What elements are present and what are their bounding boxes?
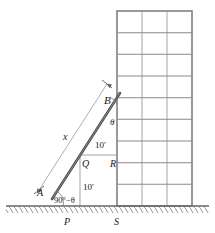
ground [6,206,209,213]
ladder-length-dimension [34,80,112,194]
label-point-a: A [36,187,44,198]
building-wall [117,11,192,206]
figure-canvas: B θ 10′ Q R 10′ x A 90°−θ P S [0,0,215,233]
label-point-p: P [63,216,70,227]
label-point-q: Q [82,158,90,169]
label-point-b: B [104,94,111,106]
label-point-s: S [114,216,119,227]
label-vertical-dimension: 10′ [83,182,94,192]
label-angle-complement: 90°−θ [54,195,75,205]
building-outline [117,11,192,206]
geometry-figure: B θ 10′ Q R 10′ x A 90°−θ P S [0,0,215,233]
ground-hatching [6,206,209,213]
label-horizontal-dimension: 10′ [95,140,106,150]
label-angle-theta: θ [110,117,115,127]
label-ladder-length: x [62,131,68,142]
label-point-r: R [109,158,116,169]
x-dimension-line [39,84,107,190]
